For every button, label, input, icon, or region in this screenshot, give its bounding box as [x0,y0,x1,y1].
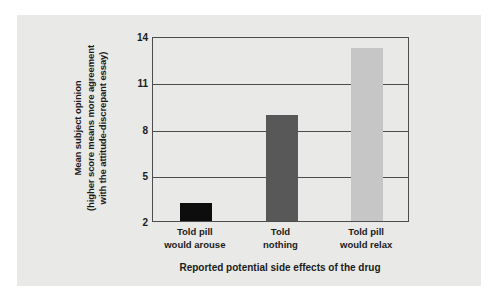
figure: Mean subject opinion (higher score means… [0,0,500,300]
y-axis-title-line-1: Mean subject opinion [72,45,85,211]
x-axis-category-label: Told pillwould relax [323,226,409,251]
x-axis-title: Reported potential side effects of the d… [120,262,440,273]
y-axis-tick-label: 11 [122,78,148,89]
y-axis-tick-label: 5 [122,170,148,181]
x-axis-category-label: Toldnothing [238,226,324,251]
y-axis-title-line-3: with the attitude-discrepant essay) [97,45,110,211]
x-axis-category-labels: Told pillwould arouseToldnothingTold pil… [152,226,409,258]
y-axis-tick-label: 2 [122,217,148,228]
y-axis-title-line-2: (higher score means more agreement [85,45,98,211]
bar [351,48,383,221]
plot-area [152,37,409,222]
y-axis-tick-label: 8 [122,124,148,135]
y-axis-ticks: 2581114 [120,37,148,222]
bar [180,203,212,222]
y-axis-tick-label: 14 [122,32,148,43]
bar [266,115,298,221]
y-axis-title: Mean subject opinion (higher score means… [60,32,122,224]
x-axis-category-label: Told pillwould arouse [152,226,238,251]
